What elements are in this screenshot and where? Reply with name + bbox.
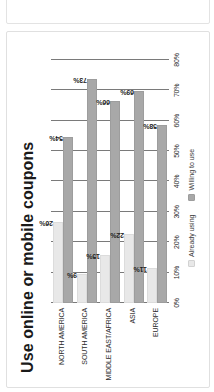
bar-already-using bbox=[77, 274, 87, 303]
bar-value-label: 11% bbox=[134, 266, 147, 273]
legend-swatch-icon bbox=[188, 260, 195, 267]
bar-value-label: 58% bbox=[144, 123, 158, 130]
legend-item[interactable]: Willing to use bbox=[188, 149, 195, 201]
value-tick-label: 60% bbox=[173, 114, 180, 127]
value-tick-label: 70% bbox=[173, 84, 180, 97]
value-tick-label: 10% bbox=[173, 266, 180, 279]
bar-value-label: 26% bbox=[39, 220, 53, 227]
legend-label: Willing to use bbox=[188, 149, 195, 191]
bar-row: EUROPE11%58% bbox=[145, 60, 169, 303]
bar-value-label: 54% bbox=[49, 135, 63, 142]
bar-already-using bbox=[100, 255, 110, 303]
value-tick-label: 30% bbox=[173, 205, 180, 218]
value-tick-label: 50% bbox=[173, 144, 180, 157]
legend-swatch-icon bbox=[188, 194, 195, 201]
value-tick-label: 40% bbox=[173, 175, 180, 188]
top-partial-panel: MID bbox=[6, 0, 210, 24]
bar-row: MIDDLE EAST/AFRICA15%66% bbox=[98, 60, 122, 303]
category-label: MIDDLE EAST/AFRICA bbox=[105, 308, 112, 381]
bar-willing-to-use bbox=[157, 125, 167, 303]
chart-card: Use online or mobile coupons 0%10%20%30%… bbox=[6, 31, 210, 388]
chart-title: Use online or mobile coupons bbox=[19, 43, 37, 373]
bar-already-using bbox=[53, 222, 63, 303]
value-tick-label: 80% bbox=[173, 53, 180, 66]
bar-value-label: 66% bbox=[96, 99, 110, 106]
category-label: NORTH AMERICA bbox=[58, 308, 65, 365]
legend-item[interactable]: Already using bbox=[188, 215, 195, 267]
bar-row: NORTH AMERICA26%54% bbox=[51, 60, 75, 303]
bar-already-using bbox=[147, 268, 157, 303]
bar-row: SOUTH AMERICA9%73% bbox=[75, 60, 99, 303]
bar-value-label: 15% bbox=[86, 253, 100, 260]
category-label: SOUTH AMERICA bbox=[81, 308, 88, 365]
value-tick-label: 20% bbox=[173, 236, 180, 249]
category-label: ASIA bbox=[129, 308, 136, 324]
chart-legend: Already usingWilling to use bbox=[188, 149, 195, 267]
plot-area: 0%10%20%30%40%50%60%70%80% NORTH AMERICA… bbox=[51, 60, 169, 303]
bar-already-using bbox=[124, 234, 134, 303]
bar-value-label: 22% bbox=[110, 232, 124, 239]
value-tick-label: 0% bbox=[173, 298, 180, 308]
bar-willing-to-use bbox=[110, 101, 120, 303]
bar-value-label: 73% bbox=[73, 77, 87, 84]
legend-label: Already using bbox=[188, 215, 195, 257]
bar-value-label: 9% bbox=[67, 272, 77, 279]
bar-value-label: 69% bbox=[120, 89, 134, 96]
bar-willing-to-use bbox=[87, 79, 97, 303]
category-label: EUROPE bbox=[152, 308, 159, 337]
rotated-chart-wrapper: Use online or mobile coupons 0%10%20%30%… bbox=[7, 32, 209, 387]
